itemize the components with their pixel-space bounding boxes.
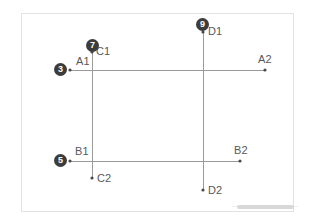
step-badge-7: 7 xyxy=(86,39,99,52)
endpoint-dot-a2[interactable] xyxy=(263,68,266,71)
endpoint-dot-d2[interactable] xyxy=(201,188,204,191)
point-label-a2: A2 xyxy=(258,54,272,65)
diagram-canvas: A1 A2 B1 B2 C1 C2 D1 D2 3 7 9 5 xyxy=(0,0,315,224)
endpoint-dot-b2[interactable] xyxy=(238,159,241,162)
point-label-c2: C2 xyxy=(97,173,111,184)
step-badge-9: 9 xyxy=(196,18,209,31)
point-label-d1: D1 xyxy=(208,26,222,37)
horizontal-scrollbar[interactable] xyxy=(237,205,294,209)
point-label-b2: B2 xyxy=(234,145,248,156)
point-label-b1: B1 xyxy=(75,146,89,157)
endpoint-dot-c2[interactable] xyxy=(90,176,93,179)
endpoint-dot-a1[interactable] xyxy=(68,68,71,71)
point-label-d2: D2 xyxy=(208,185,222,196)
endpoint-dot-b1[interactable] xyxy=(68,159,71,162)
step-badge-3: 3 xyxy=(54,63,67,76)
step-badge-5: 5 xyxy=(54,154,67,167)
diagram-graphics xyxy=(0,0,315,224)
point-label-a1: A1 xyxy=(76,56,90,67)
